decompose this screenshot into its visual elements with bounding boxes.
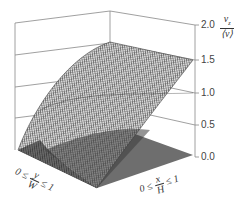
z-label-denominator: ⟨v⟩ [220,29,234,39]
z-label-sub: z [228,20,230,26]
z-tick-2-0: 2.0 [201,20,215,30]
z-tick-0-5: 0.5 [201,120,215,130]
x-label-right: ≤ 1 [164,173,180,187]
z-axis-label: vz ⟨v⟩ [220,14,234,39]
z-tick-1-0: 1.0 [201,88,215,98]
y-label-left: 0 ≤ [14,165,30,180]
z-tick-0-0: 0.0 [201,152,215,162]
x-label-left: 0 ≤ [138,180,154,194]
z-tick-1-5: 1.5 [201,55,215,65]
